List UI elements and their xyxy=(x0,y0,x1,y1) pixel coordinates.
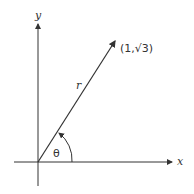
diagram-canvas xyxy=(0,0,194,194)
point-label: (1,√3) xyxy=(120,43,153,54)
y-axis-label: y xyxy=(35,10,41,21)
angle-label: θ xyxy=(53,148,60,159)
radius-vector xyxy=(38,41,115,162)
radius-label: r xyxy=(76,80,81,91)
x-axis-label: x xyxy=(177,156,183,167)
angle-arc xyxy=(59,133,72,162)
